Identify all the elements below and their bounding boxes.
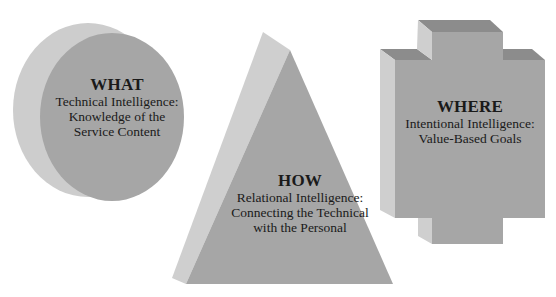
where-label: WHERE Intentional Intelligence: Value-Ba… <box>400 98 540 146</box>
how-line-2: Connecting the Technical <box>220 205 380 220</box>
how-label: HOW Relational Intelligence: Connecting … <box>220 172 380 235</box>
what-title: WHAT <box>52 76 182 94</box>
what-line-2: Knowledge of the <box>52 109 182 124</box>
where-line-2: Value-Based Goals <box>400 131 540 146</box>
where-line-1: Intentional Intelligence: <box>400 116 540 131</box>
how-pyramid-shape <box>172 32 393 284</box>
what-line-3: Service Content <box>52 124 182 139</box>
where-title: WHERE <box>400 98 540 116</box>
how-title: HOW <box>220 172 380 190</box>
what-label: WHAT Technical Intelligence: Knowledge o… <box>52 76 182 139</box>
what-line-1: Technical Intelligence: <box>52 94 182 109</box>
how-line-3: with the Personal <box>220 220 380 235</box>
how-line-1: Relational Intelligence: <box>220 190 380 205</box>
diagram-shapes <box>0 0 556 297</box>
